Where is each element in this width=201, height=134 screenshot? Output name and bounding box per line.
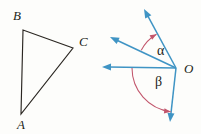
angle-arc-beta [132,68,171,112]
ray-horizontal-left-arrowhead [102,64,111,71]
angle-label-alpha: α [157,43,165,58]
ray-up-arrowhead [144,9,151,19]
triangle-side-group [21,30,73,114]
ray-up [147,15,176,68]
figure-canvas: A B C α β O [0,0,201,134]
ray-horizontal-left [108,67,176,68]
ray-group [102,9,176,122]
ray-upper-left-arrowhead [110,37,120,44]
vertex-label-a: A [16,117,25,132]
vertex-label-o: O [184,61,194,76]
angle-arc-beta-arrowhead [164,108,171,113]
angle-label-beta: β [155,74,162,89]
vertex-label-b: B [13,8,21,23]
ray-upper-left [116,40,176,68]
ray-down-arrowhead [168,113,175,122]
triangle-abc [21,30,73,114]
geometry-figure: A B C α β O [0,0,201,134]
ray-down [171,68,176,116]
vertex-label-c: C [79,34,88,49]
